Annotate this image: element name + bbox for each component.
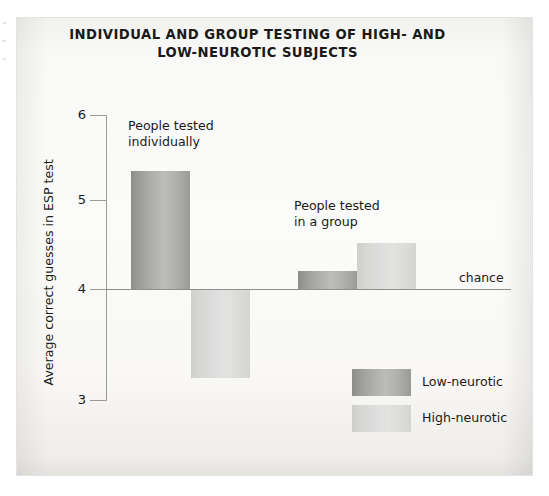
figure-panel — [17, 18, 532, 475]
scan-artifact — [3, 22, 6, 24]
scan-artifact — [3, 58, 6, 60]
scan-artifact — [2, 40, 6, 42]
page-title: INDIVIDUAL AND GROUP TESTING OF HIGH- AN… — [40, 26, 475, 62]
